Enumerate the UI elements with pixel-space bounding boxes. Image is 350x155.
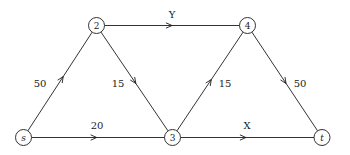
- edge-3-4: [177, 32, 243, 131]
- edge-label-2-3: 15: [112, 78, 125, 89]
- node-label-2: 2: [94, 21, 100, 31]
- node-label-t: t: [320, 133, 324, 143]
- edge-4-t: [252, 32, 318, 131]
- arrowhead-icon-4-t: [281, 77, 286, 83]
- arrowhead-icon-2-3: [131, 77, 136, 83]
- node-label-3: 3: [170, 133, 176, 143]
- edge-label-3-t: X: [243, 120, 251, 131]
- node-label-s: s: [21, 133, 26, 143]
- node-t[interactable]: t: [314, 130, 330, 146]
- network-diagram: s234t 50Y15201550X: [0, 0, 350, 155]
- node-4[interactable]: 4: [240, 18, 256, 34]
- edge-label-s-3: 20: [91, 120, 104, 131]
- edge-label-4-t: 50: [294, 78, 307, 89]
- edge-label-3-4: 15: [219, 78, 232, 89]
- node-2[interactable]: 2: [89, 18, 105, 34]
- edge-label-2-4: Y: [168, 9, 176, 20]
- node-3[interactable]: 3: [165, 130, 181, 146]
- edge-label-s-2: 50: [34, 78, 47, 89]
- arrowhead-icon-s-2: [58, 77, 63, 83]
- network-graph-canvas: s234t 50Y15201550X: [0, 0, 350, 155]
- node-label-4: 4: [245, 21, 251, 31]
- arrowhead-icon-3-4: [206, 80, 211, 86]
- edges-layer: [28, 26, 318, 138]
- node-s[interactable]: s: [16, 130, 32, 146]
